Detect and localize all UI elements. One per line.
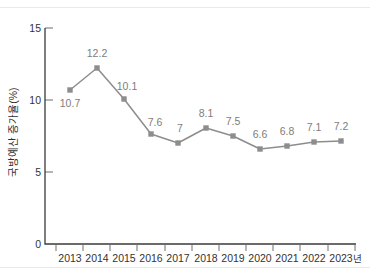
value-label-2020: 6.6 <box>253 128 268 140</box>
value-label-2018: 8.1 <box>199 107 214 119</box>
chart-container: 국방예산 증가율(%) 15 10 5 0 2013 2014 2015 201… <box>0 0 370 276</box>
data-point-2013 <box>67 87 72 92</box>
value-label-2014: 12.2 <box>87 47 108 59</box>
x-tick-label-2019: 2019 <box>221 252 245 264</box>
y-tick-label-5: 5 <box>35 166 41 178</box>
value-label-2013: 10.7 <box>60 97 81 109</box>
value-label-2016: 7.6 <box>148 116 163 128</box>
data-point-2019 <box>230 133 235 138</box>
x-tick-label-2022: 2022 <box>302 252 326 264</box>
data-point-2022 <box>311 139 316 144</box>
value-label-2019: 7.5 <box>226 115 241 127</box>
value-label-2021: 6.8 <box>280 125 295 137</box>
value-label-2017: 7 <box>177 122 183 134</box>
y-tick-label-10: 10 <box>29 94 41 106</box>
x-tick-label-2020: 2020 <box>248 252 272 264</box>
x-axis-unit-label: 년 <box>353 253 362 264</box>
y-tick-label-0: 0 <box>35 238 41 250</box>
data-point-2017 <box>175 140 180 145</box>
data-point-2021 <box>284 143 289 148</box>
x-tick-label-2021: 2021 <box>275 252 299 264</box>
data-point-2023 <box>338 138 343 143</box>
x-tick-label-2023: 2023 <box>329 252 353 264</box>
data-point-2015 <box>121 96 126 101</box>
data-point-2016 <box>148 131 153 136</box>
x-tick-label-2017: 2017 <box>166 252 190 264</box>
x-tick-label-2014: 2014 <box>85 252 109 264</box>
value-label-2022: 7.1 <box>307 121 322 133</box>
y-tick-label-15: 15 <box>29 22 41 34</box>
x-tick-label-2018: 2018 <box>194 252 218 264</box>
y-axis-label: 국방예산 증가율(%) <box>7 87 19 176</box>
data-point-2020 <box>257 146 262 151</box>
x-tick-label-2015: 2015 <box>112 252 136 264</box>
value-label-2015: 10.1 <box>117 80 138 92</box>
x-tick-label-2016: 2016 <box>139 252 163 264</box>
axis-lines <box>45 28 356 244</box>
line-chart: 국방예산 증가율(%) 15 10 5 0 2013 2014 2015 201… <box>0 0 370 276</box>
data-point-2018 <box>203 125 208 130</box>
x-tick-label-2013: 2013 <box>58 252 82 264</box>
value-label-2023: 7.2 <box>334 120 349 132</box>
data-point-2014 <box>94 65 99 70</box>
